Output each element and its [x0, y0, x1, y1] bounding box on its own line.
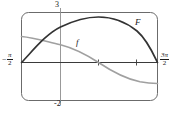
- curve-f: [22, 37, 158, 84]
- plot-canvas: [0, 0, 179, 115]
- fraction-denominator: 2: [162, 60, 168, 67]
- fraction-3pi-over-2: 3π 2: [160, 52, 169, 67]
- y-axis-bottom-label: -2: [54, 100, 61, 108]
- fraction-denominator: 2: [7, 60, 13, 67]
- y-axis-top-label: 3: [55, 1, 59, 9]
- curve-label-F: F: [135, 18, 141, 27]
- curve-label-f: f: [76, 38, 79, 47]
- minus-sign: −: [2, 56, 7, 64]
- fraction-pi-over-2: π 2: [7, 52, 13, 67]
- fraction-numerator: π: [7, 52, 13, 59]
- x-axis-left-label: − π 2: [2, 52, 13, 67]
- fraction-numerator: 3π: [160, 52, 169, 59]
- x-axis-right-label: 3π 2: [160, 52, 169, 67]
- graph-figure: 3 -2 − π 2 3π 2 F f: [0, 0, 179, 115]
